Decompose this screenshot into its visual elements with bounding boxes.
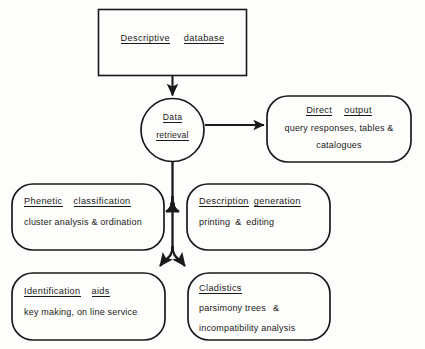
diagram-canvas: Descriptivedatabase Data retrieval Direc… <box>0 0 425 349</box>
identification-aids-box <box>12 273 165 340</box>
cladistics-box <box>188 273 330 340</box>
description-generation-box <box>187 184 330 250</box>
retrieval-circle <box>141 99 204 162</box>
connector-retrieval-to-description <box>173 196 180 212</box>
phenetic-box <box>12 184 164 250</box>
connector-retrieval-to-cladistics <box>173 246 186 266</box>
diagram-graphics <box>0 0 425 349</box>
connector-retrieval-to-identification <box>160 246 173 266</box>
database-box <box>99 10 247 76</box>
direct-output-box <box>267 96 411 162</box>
